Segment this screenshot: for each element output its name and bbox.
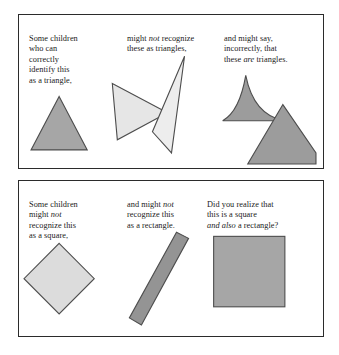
concave-curved-triangle-shape <box>223 75 284 120</box>
rotated-square-diamond-shape <box>24 243 94 313</box>
triangles-shape-layer <box>19 15 323 168</box>
quads-shape-layer <box>19 181 323 336</box>
panel-quadrilaterals: Some children might not recognize this a… <box>18 180 324 337</box>
geometry-concept-figure: Some children who can correctly identify… <box>0 0 339 355</box>
thin-sliver-triangle-shape <box>152 56 184 153</box>
tilted-thin-rectangle-shape <box>129 232 188 325</box>
upright-square-shape <box>214 236 285 306</box>
panel-triangles: Some children who can correctly identify… <box>18 14 324 169</box>
equilateral-triangle-shape <box>31 97 87 150</box>
